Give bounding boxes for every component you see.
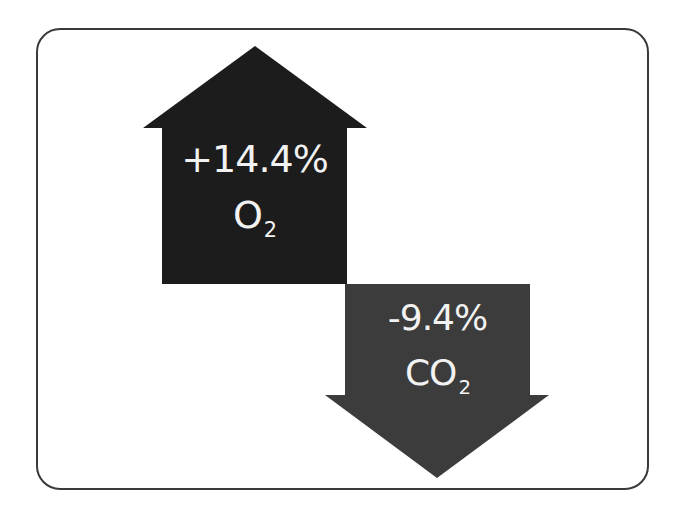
arrows-layer (0, 0, 680, 526)
oxygen-label: O2 (162, 196, 347, 241)
oxygen-change-value: +14.4% (162, 140, 347, 178)
oxygen-subscript: 2 (264, 218, 276, 242)
oxygen-formula: O (233, 193, 262, 237)
carbon-dioxide-label: CO2 (345, 355, 530, 398)
carbon-dioxide-change-value: -9.4% (345, 300, 530, 336)
carbon-dioxide-subscript: 2 (458, 376, 470, 399)
carbon-dioxide-formula: CO (405, 352, 456, 393)
